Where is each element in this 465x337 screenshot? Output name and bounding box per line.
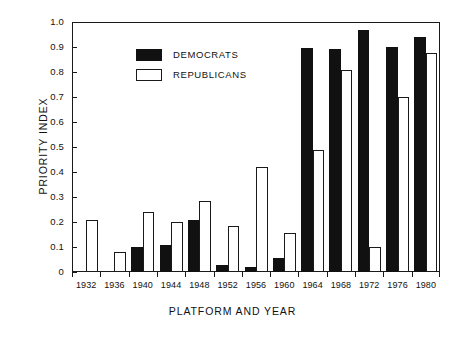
y-tick-mark [72,247,77,248]
x-tick-mark [157,272,158,277]
x-tick-label: 1960 [274,280,294,290]
x-tick-mark [270,272,271,277]
legend-item-democrats: DEMOCRATS [136,46,247,63]
bar-republicans-1956 [256,167,268,272]
bar-republicans-1944 [171,222,183,272]
y-tick-label: 0.6 [24,117,64,127]
bar-democrats-1940 [131,247,143,272]
y-tick-mark [72,22,77,23]
x-tick-mark [439,272,440,277]
x-tick-label: 1948 [189,280,209,290]
x-tick-mark [355,272,356,277]
x-tick-mark [214,272,215,277]
bar-democrats-1976 [386,47,398,272]
y-tick-mark [72,222,77,223]
x-tick-label: 1956 [246,280,266,290]
y-tick-label: 0.4 [24,167,64,177]
y-tick-mark [72,72,77,73]
x-tick-mark [185,272,186,277]
y-tick-label: 0.8 [24,67,64,77]
x-tick-label: 1976 [387,280,407,290]
priority-index-bar-chart: PRIORITY INDEX PLATFORM AND YEAR 00.10.2… [0,0,465,337]
bar-republicans-1964 [313,150,325,273]
chart-legend: DEMOCRATS REPUBLICANS [136,46,247,86]
bar-republicans-1932 [86,220,98,273]
bar-republicans-1936 [114,252,126,272]
bar-democrats-1952 [216,265,228,273]
y-tick-mark [72,122,77,123]
x-tick-mark [298,272,299,277]
bar-democrats-1944 [160,245,172,273]
y-tick-mark [72,197,77,198]
bar-republicans-1980 [426,53,438,272]
bar-republicans-1940 [143,212,155,272]
bar-republicans-1952 [228,226,240,272]
legend-swatch-democrats-icon [136,49,162,61]
bar-democrats-1948 [188,220,200,273]
y-tick-label: 0.5 [24,142,64,152]
bar-democrats-1964 [301,48,313,272]
x-tick-mark [383,272,384,277]
x-tick-mark [100,272,101,277]
y-tick-mark [72,147,77,148]
x-tick-mark [72,272,73,277]
bar-democrats-1972 [358,30,370,273]
x-tick-label: 1980 [416,280,436,290]
y-tick-mark [72,97,77,98]
bar-republicans-1972 [369,247,381,272]
bar-republicans-1960 [284,233,296,272]
x-tick-label: 1964 [302,280,322,290]
x-tick-label: 1932 [76,280,96,290]
x-tick-label: 1952 [217,280,237,290]
legend-label-democrats: DEMOCRATS [173,49,238,60]
x-tick-mark [242,272,243,277]
x-tick-mark [327,272,328,277]
y-tick-label: 1.0 [24,17,64,27]
x-tick-label: 1936 [104,280,124,290]
y-tick-mark [72,172,77,173]
x-tick-label: 1940 [133,280,153,290]
x-tick-mark [412,272,413,277]
x-axis-title: PLATFORM AND YEAR [0,305,465,317]
legend-swatch-republicans-icon [136,69,162,81]
legend-item-republicans: REPUBLICANS [136,66,247,83]
x-tick-mark [129,272,130,277]
bar-democrats-1980 [414,37,426,272]
y-tick-label: 0.1 [24,242,64,252]
x-tick-label: 1968 [331,280,351,290]
y-tick-label: 0.3 [24,192,64,202]
y-tick-label: 0.9 [24,42,64,52]
bar-democrats-1960 [273,258,285,272]
bar-republicans-1976 [398,97,410,272]
bar-republicans-1968 [341,70,353,273]
x-tick-label: 1944 [161,280,181,290]
x-tick-label: 1972 [359,280,379,290]
legend-label-republicans: REPUBLICANS [173,69,247,80]
y-tick-label: 0.7 [24,92,64,102]
y-tick-label: 0 [24,267,64,277]
bar-democrats-1968 [329,49,341,272]
bar-republicans-1948 [199,201,211,272]
y-tick-mark [72,47,77,48]
y-tick-label: 0.2 [24,217,64,227]
bar-democrats-1956 [245,267,257,272]
